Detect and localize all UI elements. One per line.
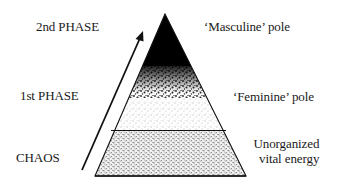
chaos-layer <box>90 130 250 180</box>
label-unorganized: Unorganized vital energy <box>250 136 319 166</box>
label-1st-phase: 1st PHASE <box>20 88 79 103</box>
label-unorganized-line1: Unorganized <box>250 136 319 151</box>
label-2nd-phase: 2nd PHASE <box>36 19 99 34</box>
label-unorganized-line2: vital energy <box>250 151 319 166</box>
label-chaos: CHAOS <box>16 150 60 165</box>
label-feminine-pole: ‘Feminine’ pole <box>233 89 314 104</box>
label-masculine-pole: ‘Masculine’ pole <box>204 19 290 34</box>
